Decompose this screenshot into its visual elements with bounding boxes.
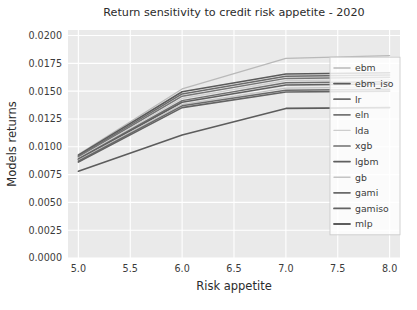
legend-label-lda: lda [355, 125, 369, 136]
legend-label-gb: gb [355, 172, 367, 183]
chart-title: Return sensitivity to credit risk appeti… [103, 6, 364, 19]
legend-label-gami: gami [355, 187, 378, 198]
legend-label-eln: eln [355, 109, 369, 120]
x-tick-label-4: 7.0 [278, 263, 293, 274]
legend-label-ebm: ebm [355, 62, 376, 73]
x-tick-label-2: 6.0 [174, 263, 189, 274]
legend-label-xgb: xgb [355, 140, 372, 151]
y-tick-label-7: 0.0175 [28, 58, 62, 69]
legend-label-lgbm: lgbm [355, 156, 378, 167]
y-tick-label-8: 0.0200 [28, 30, 62, 41]
y-tick-label-3: 0.0075 [28, 169, 62, 180]
chart-figure: 0.00000.00250.00500.00750.01000.01250.01… [0, 0, 417, 310]
x-tick-label-5: 7.5 [330, 263, 345, 274]
legend: ebmebm_isolrelnldaxgblgbmgbgamigamisomlp [330, 57, 400, 235]
y-tick-label-5: 0.0125 [28, 113, 62, 124]
legend-label-mlp: mlp [355, 218, 373, 229]
y-tick-label-6: 0.0150 [28, 86, 62, 97]
y-axis-title: Models returns [5, 101, 19, 186]
x-tick-label-6: 8.0 [382, 263, 397, 274]
y-tick-label-0: 0.0000 [28, 252, 62, 263]
x-tick-label-3: 6.5 [226, 263, 241, 274]
legend-label-lr: lr [355, 94, 362, 105]
y-tick-label-2: 0.0050 [28, 197, 62, 208]
x-axis-title: Risk appetite [196, 279, 272, 293]
chart-svg: 0.00000.00250.00500.00750.01000.01250.01… [0, 0, 417, 310]
legend-label-gamiso: gamiso [355, 203, 389, 214]
x-tick-label-0: 5.0 [71, 263, 86, 274]
y-tick-label-1: 0.0025 [28, 225, 62, 236]
y-tick-label-4: 0.0100 [28, 141, 62, 152]
x-tick-label-1: 5.5 [123, 263, 138, 274]
legend-label-ebm_iso: ebm_iso [355, 78, 394, 89]
